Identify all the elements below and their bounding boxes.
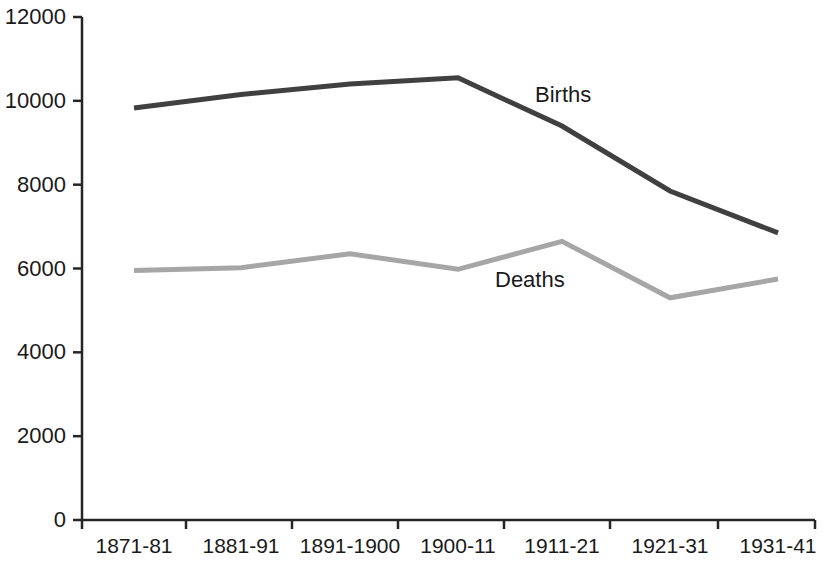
series-label-births: Births bbox=[535, 84, 591, 106]
chart-series bbox=[134, 78, 778, 298]
chart-axes bbox=[73, 17, 815, 529]
chart-canvas bbox=[0, 0, 824, 566]
x-axis-tick-label: 1931-41 bbox=[698, 535, 824, 557]
y-axis-tick-label: 8000 bbox=[17, 174, 66, 196]
y-axis-tick-label: 0 bbox=[54, 509, 66, 531]
y-axis-tick-label: 10000 bbox=[5, 90, 66, 112]
series-label-deaths: Deaths bbox=[495, 269, 565, 291]
y-axis-tick-label: 12000 bbox=[5, 6, 66, 28]
line-chart: 020004000600080001000012000 1871-811881-… bbox=[0, 0, 824, 566]
series-line-deaths bbox=[134, 241, 778, 297]
y-axis-tick-label: 6000 bbox=[17, 258, 66, 280]
series-line-births bbox=[134, 78, 778, 233]
y-axis-tick-label: 2000 bbox=[17, 425, 66, 447]
y-axis-tick-label: 4000 bbox=[17, 341, 66, 363]
